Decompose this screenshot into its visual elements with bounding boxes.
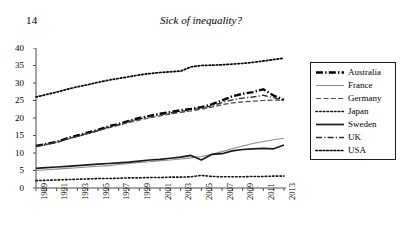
legend-item-japan[interactable]: Japan (315, 105, 393, 118)
x-axis-tick-label: 1993 (81, 183, 90, 200)
x-axis-tick-label: 1991 (60, 183, 69, 200)
legend-label: Japan (348, 106, 369, 117)
legend-key-icon (315, 92, 345, 105)
series-line-usa (36, 58, 284, 97)
x-axis-tick-labels: 1989199119931995199719992001200320052007… (32, 198, 302, 242)
x-axis-tick-label: 2005 (205, 183, 214, 200)
x-axis-tick-label: 2011 (267, 183, 276, 200)
y-axis-tick-label: 30 (2, 79, 24, 88)
legend-item-sweden[interactable]: Sweden (315, 118, 393, 131)
x-axis-tick-label: 2007 (226, 183, 235, 200)
page-canvas: 14 Sick of inequality? 0510152025303540 … (0, 0, 402, 242)
series-line-sweden (36, 145, 284, 168)
x-axis-tick-label: 1999 (143, 183, 152, 200)
legend-item-uk[interactable]: UK (315, 131, 393, 144)
legend-key-icon (315, 144, 345, 157)
legend-key-icon (315, 79, 345, 92)
x-axis-tick-label: 1989 (40, 183, 49, 200)
legend-key-icon (315, 105, 345, 118)
y-axis-tick-label: 40 (2, 44, 24, 53)
y-axis-tick-label: 25 (2, 96, 24, 105)
plot-area (32, 48, 288, 196)
legend-item-france[interactable]: France (315, 79, 393, 92)
legend-label: Germany (348, 93, 382, 104)
y-axis-tick-label: 15 (2, 131, 24, 140)
x-axis-tick-label: 1995 (102, 183, 111, 200)
x-axis-tick-label: 2001 (164, 183, 173, 200)
y-axis-tick-label: 10 (2, 149, 24, 158)
y-axis-tick-label: 0 (2, 184, 24, 193)
x-axis-tick-label: 2013 (288, 183, 297, 200)
y-axis-tick-label: 5 (2, 166, 24, 175)
running-head: 14 Sick of inequality? (0, 14, 402, 30)
series-line-germany (36, 100, 284, 147)
y-axis-tick-label: 20 (2, 114, 24, 123)
legend-item-germany[interactable]: Germany (315, 92, 393, 105)
legend-key-icon (315, 66, 345, 79)
figure-line-chart: 0510152025303540 19891991199319951997199… (0, 40, 402, 242)
y-axis-tick-label: 35 (2, 61, 24, 70)
chart-legend: AustraliaFranceGermanyJapanSwedenUKUSA (310, 62, 396, 160)
legend-item-australia[interactable]: Australia (315, 66, 393, 79)
x-axis-tick-label: 2009 (246, 183, 255, 200)
legend-label: UK (348, 132, 361, 143)
x-axis-tick-label: 1997 (122, 183, 131, 200)
legend-key-icon (315, 118, 345, 131)
legend-key-icon (315, 131, 345, 144)
chart-svg (32, 48, 288, 196)
x-axis-tick-label: 2003 (184, 183, 193, 200)
legend-item-usa[interactable]: USA (315, 144, 393, 157)
legend-label: France (348, 80, 373, 91)
legend-label: Australia (348, 67, 381, 78)
running-title: Sick of inequality? (0, 14, 402, 26)
series-line-japan (36, 175, 284, 180)
legend-label: Sweden (348, 119, 377, 130)
legend-label: USA (348, 145, 366, 156)
series-line-uk (36, 95, 284, 146)
